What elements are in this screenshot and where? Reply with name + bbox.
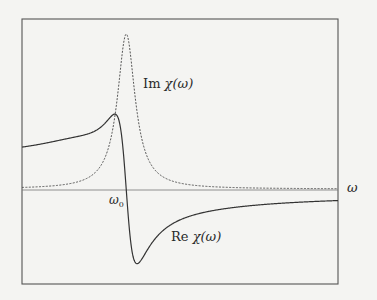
plot-frame — [22, 19, 338, 284]
re-chi-label: Re χ(ω) — [171, 230, 221, 243]
im-chi-curve — [22, 34, 338, 189]
im-label-prefix: Im — [143, 76, 165, 91]
plot-area — [0, 0, 377, 300]
omega0-tick-label: ω0 — [109, 194, 124, 209]
im-label-func: χ(ω) — [165, 76, 194, 91]
resonance-figure: Im χ(ω) Re χ(ω) ω0 ω — [0, 0, 377, 300]
im-chi-label: Im χ(ω) — [143, 77, 193, 90]
omega0-base: ω — [109, 193, 119, 207]
x-axis-label: ω — [347, 181, 358, 194]
re-label-prefix: Re — [171, 229, 193, 244]
re-label-func: χ(ω) — [193, 229, 222, 244]
omega0-subscript: 0 — [119, 200, 124, 209]
